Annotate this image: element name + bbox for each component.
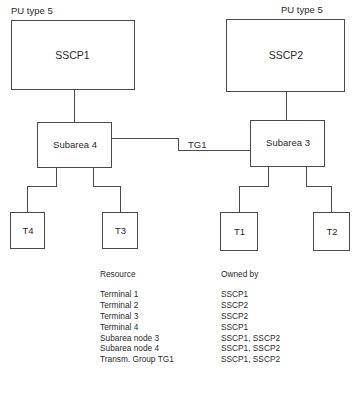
link-subarea4-t4 [28,168,57,213]
cell-owned-by: SSCP1 [221,290,248,298]
cell-resource: Subarea node 4 [100,344,159,352]
cell-resource: Terminal 4 [100,323,138,331]
t2-label: T2 [314,227,350,237]
link-tg1 [112,139,251,151]
sscp2-label: SSCP2 [227,50,345,61]
cell-resource: Subarea node 3 [100,334,159,342]
resource-ownership-table: Resource Owned by Terminal 1 SSCP1 Termi… [100,270,350,366]
subarea3-label: Subarea 3 [251,138,325,148]
cell-resource: Terminal 1 [100,290,138,298]
table-row: Terminal 4 SSCP1 [100,323,350,334]
pu-type-5-label-right: PU type 5 [281,5,323,15]
table-header-row: Resource Owned by [100,270,350,290]
cell-owned-by: SSCP1, SSCP2 [221,355,280,363]
cell-resource: Terminal 2 [100,301,138,309]
cell-owned-by: SSCP1, SSCP2 [221,334,280,342]
link-subarea4-t3 [94,168,121,213]
cell-owned-by: SSCP1, SSCP2 [221,344,280,352]
link-subarea3-t1 [240,167,269,213]
cell-resource: Terminal 3 [100,312,138,320]
cell-owned-by: SSCP2 [221,312,248,320]
link-subarea3-t2 [307,167,332,213]
column-header-owned-by: Owned by [221,270,258,278]
cell-owned-by: SSCP2 [221,301,248,309]
table-row: Transm. Group TG1 SSCP1, SSCP2 [100,355,350,366]
column-header-resource: Resource [100,270,136,278]
tg1-link-label: TG1 [188,140,206,150]
t1-label: T1 [221,227,258,237]
sscp1-label: SSCP1 [11,50,134,61]
t4-label: T4 [11,226,45,236]
cell-owned-by: SSCP1 [221,323,248,331]
subarea4-label: Subarea 4 [38,140,112,150]
t3-label: T3 [103,226,138,236]
pu-type-5-label-left: PU type 5 [11,6,53,16]
cell-resource: Transm. Group TG1 [100,355,174,363]
